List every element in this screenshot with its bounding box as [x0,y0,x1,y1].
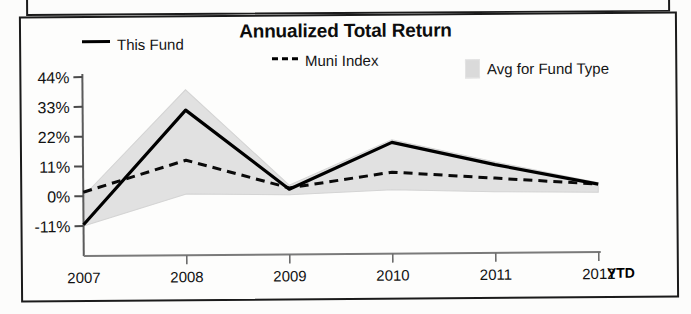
x-axis-line [84,252,601,256]
y-axis-labels: 44%33%22%11%0%-11% [33,69,70,235]
y-axis-line [82,74,83,256]
chart-panel: Annualized Total Return This Fund Muni I… [0,0,691,314]
x-axis-tick-label: 2011 [480,266,512,283]
y-axis-tick-label: -11% [34,218,70,235]
avg-fund-type-band [82,87,598,226]
y-axis-tick-label: 22% [38,129,70,146]
x-axis-tick-label: 2009 [273,267,307,284]
x-axis-tick-label: 2010 [376,266,410,283]
y-axis-tick-label: 0% [47,188,70,205]
x-axis-tick-label: 2007 [67,269,101,286]
x-axis-ytd-label: YTD [607,265,635,281]
chart-plot-area: 44%33%22%11%0%-11% 200720082009201020112… [0,0,691,314]
y-axis-tick-label: 33% [38,99,70,116]
x-axis-labels: 200720082009201020112012 [67,265,615,286]
y-axis-tick-label: 44% [37,69,69,86]
y-axis-tick-label: 11% [39,159,70,176]
x-axis-tick-label: 2008 [170,268,204,285]
